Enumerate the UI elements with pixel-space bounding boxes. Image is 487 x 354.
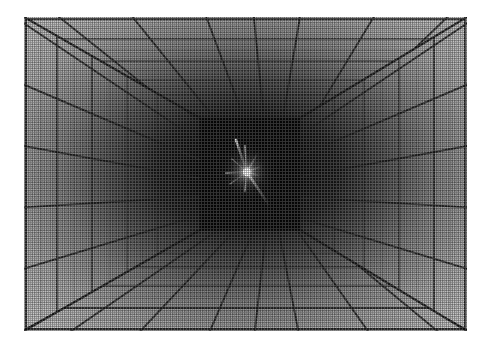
perspective-room-figure: [24, 17, 467, 331]
perspective-room-svg: [24, 17, 467, 331]
star-core-hot: [245, 170, 249, 174]
screenshot-canvas: [0, 0, 487, 354]
